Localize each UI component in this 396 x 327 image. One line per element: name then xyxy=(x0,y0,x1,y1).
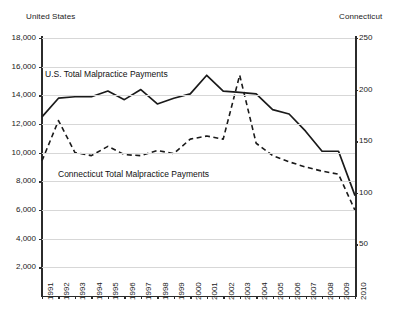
y-axis-right-tick-mark xyxy=(355,38,358,39)
y-axis-right-tick-mark xyxy=(355,193,358,194)
left-axis-title: United States xyxy=(26,12,75,21)
x-axis-tick-mark xyxy=(256,296,257,299)
x-axis-tick-mark xyxy=(108,296,109,299)
x-axis-tick-mark xyxy=(157,296,158,299)
x-axis-tick-label: 2010 xyxy=(359,282,368,300)
x-axis-tick-label: 2009 xyxy=(342,282,351,300)
gridline xyxy=(42,38,355,39)
y-axis-right-tick-mark xyxy=(355,244,358,245)
gridline xyxy=(42,181,355,182)
x-axis-tick-label: 1996 xyxy=(128,282,137,300)
y-axis-left-tick-label: 4,000 xyxy=(0,234,36,243)
x-axis-tick-label: 1991 xyxy=(46,282,55,300)
x-axis-tick-mark xyxy=(190,296,191,299)
gridline xyxy=(42,67,355,68)
x-axis-tick-label: 2001 xyxy=(210,282,219,300)
x-axis-tick-mark xyxy=(141,296,142,299)
y-axis-left-tick-mark xyxy=(39,153,42,154)
gridline xyxy=(42,267,355,268)
x-axis-tick-label: 1993 xyxy=(78,282,87,300)
y-axis-right-tick-label: 100 xyxy=(359,188,372,197)
x-axis-tick-label: 2000 xyxy=(194,282,203,300)
x-axis-tick-mark xyxy=(223,296,224,299)
malpractice-payments-chart: United States Connecticut 2,0004,0006,00… xyxy=(0,0,396,327)
y-axis-right-tick-label: 200 xyxy=(359,85,372,94)
series-label-us: U.S. Total Malpractice Payments xyxy=(45,69,168,79)
x-axis-tick-label: 1999 xyxy=(177,282,186,300)
y-axis-left-tick-mark xyxy=(39,210,42,211)
y-axis-left-tick-mark xyxy=(39,124,42,125)
y-axis-left-tick-mark xyxy=(39,95,42,96)
x-axis-tick-mark xyxy=(124,296,125,299)
y-axis-left-tick-mark xyxy=(39,267,42,268)
x-axis-tick-label: 1998 xyxy=(161,282,170,300)
x-axis-tick-label: 1995 xyxy=(111,282,120,300)
y-axis-left-tick-label: 16,000 xyxy=(0,62,36,71)
x-axis-tick-mark xyxy=(306,296,307,299)
x-axis-tick-mark xyxy=(174,296,175,299)
gridline xyxy=(42,124,355,125)
x-axis-tick-mark xyxy=(42,296,43,299)
y-axis-left-tick-mark xyxy=(39,38,42,39)
x-axis-tick-mark xyxy=(240,296,241,299)
x-axis-tick-label: 1994 xyxy=(95,282,104,300)
x-axis-tick-label: 2007 xyxy=(309,282,318,300)
x-axis-tick-label: 2006 xyxy=(293,282,302,300)
gridline xyxy=(42,95,355,96)
x-axis-tick-label: 1992 xyxy=(62,282,71,300)
y-axis-left-tick-label: 12,000 xyxy=(0,119,36,128)
y-axis-right-line xyxy=(355,36,357,297)
y-axis-left-tick-mark xyxy=(39,239,42,240)
y-axis-right-tick-label: 250 xyxy=(359,33,372,42)
y-axis-left-tick-mark xyxy=(39,67,42,68)
y-axis-right-tick-label: 50 xyxy=(359,239,368,248)
y-axis-left-tick-label: 18,000 xyxy=(0,33,36,42)
y-axis-left-tick-label: 2,000 xyxy=(0,262,36,271)
gridline xyxy=(42,210,355,211)
y-axis-left-tick-mark xyxy=(39,181,42,182)
x-axis-tick-label: 2002 xyxy=(227,282,236,300)
y-axis-left-tick-label: 14,000 xyxy=(0,90,36,99)
series-label-connecticut: Connecticut Total Malpractice Payments xyxy=(58,169,209,179)
x-axis-tick-label: 1997 xyxy=(144,282,153,300)
x-axis-tick-label: 2005 xyxy=(276,282,285,300)
y-axis-left-tick-label: 6,000 xyxy=(0,205,36,214)
y-axis-left-tick-label: 10,000 xyxy=(0,148,36,157)
right-axis-title: Connecticut xyxy=(339,12,382,21)
x-axis-tick-mark xyxy=(75,296,76,299)
x-axis-tick-mark xyxy=(273,296,274,299)
gridline xyxy=(42,153,355,154)
x-axis-tick-mark xyxy=(289,296,290,299)
y-axis-right-tick-mark xyxy=(355,141,358,142)
y-axis-right-tick-mark xyxy=(355,90,358,91)
x-axis-tick-label: 2004 xyxy=(260,282,269,300)
x-axis-tick-mark xyxy=(339,296,340,299)
x-axis-tick-mark xyxy=(91,296,92,299)
x-axis-tick-mark xyxy=(355,296,356,299)
y-axis-right-tick-label: 150 xyxy=(359,136,372,145)
x-axis-tick-mark xyxy=(322,296,323,299)
y-axis-left-tick-label: 8,000 xyxy=(0,176,36,185)
x-axis-tick-label: 2003 xyxy=(243,282,252,300)
x-axis-tick-mark xyxy=(207,296,208,299)
gridline xyxy=(42,239,355,240)
x-axis-tick-label: 2008 xyxy=(326,282,335,300)
x-axis-tick-mark xyxy=(58,296,59,299)
